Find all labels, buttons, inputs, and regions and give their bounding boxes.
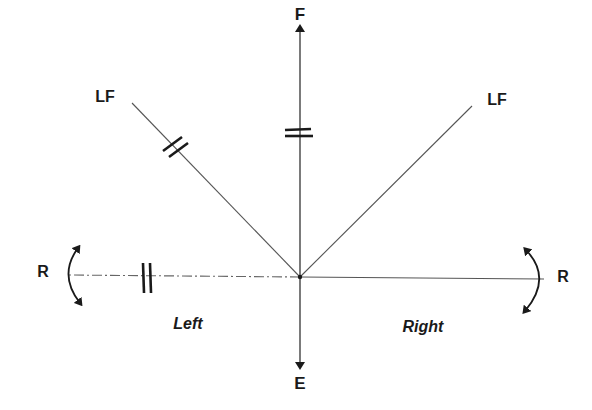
origin-point xyxy=(298,275,302,279)
horizontal-tick-marks-icon xyxy=(143,263,151,293)
forward-label: F xyxy=(295,5,305,24)
vertical-tick-marks-icon xyxy=(285,129,313,136)
side-label-right: Right xyxy=(403,318,445,335)
movement-axes-diagram: F E LF LF R R Left Right xyxy=(0,0,592,410)
horizontal-axis xyxy=(66,263,544,293)
rotation-label-right: R xyxy=(557,268,569,285)
left-axis-dashed xyxy=(66,275,300,277)
rotation-right-arrow-icon xyxy=(525,250,539,311)
backward-label: E xyxy=(294,374,305,393)
rotation-label-left: R xyxy=(37,263,49,280)
forward-backward-axis xyxy=(285,28,313,366)
left-diagonal-axis xyxy=(132,103,300,277)
side-label-left: Left xyxy=(173,315,203,332)
left-forward-label-left: LF xyxy=(95,88,115,105)
left-forward-label-right: LF xyxy=(487,91,507,108)
right-diagonal-axis xyxy=(300,106,472,277)
diagonal-tick-marks-icon xyxy=(163,137,188,157)
right-axis xyxy=(300,277,544,279)
